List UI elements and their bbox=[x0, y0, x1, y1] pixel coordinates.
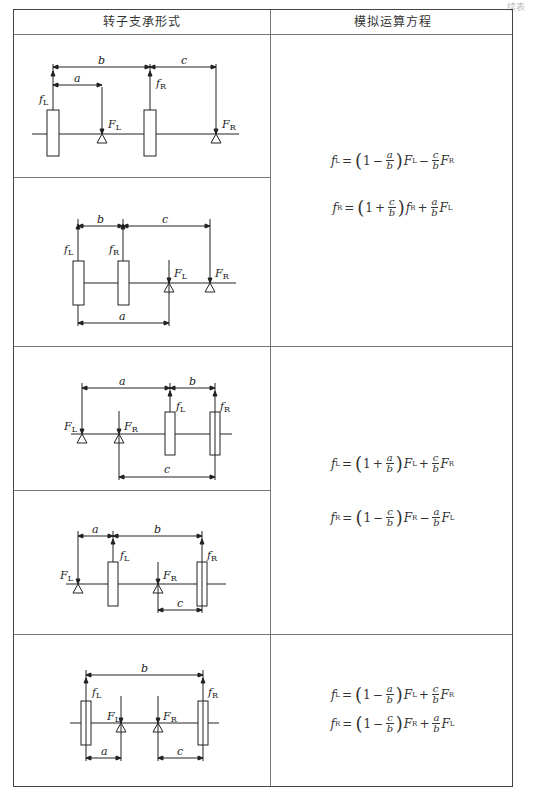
svg-text:fL: fL bbox=[175, 400, 186, 414]
operator: + bbox=[419, 688, 429, 702]
one: 1 bbox=[365, 201, 373, 215]
equals: = bbox=[342, 511, 352, 525]
operator: + bbox=[417, 201, 427, 215]
term: F bbox=[404, 511, 412, 525]
operator: + bbox=[419, 457, 429, 471]
paren-close: ) bbox=[396, 455, 403, 473]
operator: − bbox=[373, 511, 383, 525]
denominator: b bbox=[387, 695, 393, 705]
svg-text:FR: FR bbox=[123, 420, 139, 434]
paren-close: ) bbox=[396, 152, 403, 170]
denominator: b bbox=[432, 464, 438, 474]
svg-text:FL: FL bbox=[106, 710, 121, 724]
fraction: ab bbox=[386, 150, 394, 171]
lhs-sub: L bbox=[335, 157, 340, 165]
svg-text:FL: FL bbox=[107, 118, 122, 132]
svg-text:fL: fL bbox=[63, 243, 74, 257]
svg-text:FR: FR bbox=[214, 267, 230, 281]
denominator: b bbox=[389, 208, 395, 218]
svg-text:c: c bbox=[181, 54, 187, 67]
term-sub: L bbox=[450, 720, 455, 728]
equals: = bbox=[342, 457, 352, 471]
one: 1 bbox=[363, 154, 371, 168]
svg-text:FR: FR bbox=[162, 569, 178, 583]
fraction: cb bbox=[432, 684, 440, 705]
paren-open: ( bbox=[355, 509, 362, 527]
term-sub: R bbox=[449, 460, 454, 468]
svg-text:fL: fL bbox=[91, 686, 102, 700]
denominator: b bbox=[433, 724, 439, 734]
term-sub: L bbox=[412, 157, 417, 165]
lhs-sub: R bbox=[337, 204, 342, 212]
header-support-form: 转子支承形式 bbox=[14, 10, 270, 34]
fraction: cb bbox=[388, 197, 396, 218]
row-divider bbox=[14, 490, 270, 491]
svg-text:FR: FR bbox=[162, 710, 178, 724]
rotor-diagram-5: b a c fL fR FL FR bbox=[24, 643, 264, 783]
term-sub: R bbox=[449, 157, 454, 165]
row-divider bbox=[14, 177, 270, 178]
equals: = bbox=[344, 201, 354, 215]
denominator: b bbox=[387, 724, 393, 734]
operator: + bbox=[419, 717, 429, 731]
equals: = bbox=[342, 154, 352, 168]
equation-group-2-line-2: fR = (1 − cb ) FR − ab FL bbox=[271, 507, 514, 531]
operator: − bbox=[373, 717, 383, 731]
paren-close: ) bbox=[396, 686, 403, 704]
term: F bbox=[404, 688, 412, 702]
svg-text:a: a bbox=[119, 310, 126, 323]
paren-open: ( bbox=[355, 152, 362, 170]
operator: − bbox=[373, 154, 383, 168]
equation-group-3-line-1: fL = (1 − ab ) FL + cb FR bbox=[271, 684, 514, 708]
svg-text:c: c bbox=[162, 213, 168, 226]
term-sub: L bbox=[412, 691, 417, 699]
one: 1 bbox=[363, 457, 371, 471]
paren-close: ) bbox=[398, 199, 405, 217]
paren-close: ) bbox=[396, 509, 403, 527]
denominator: b bbox=[387, 464, 393, 474]
svg-text:c: c bbox=[177, 597, 183, 610]
svg-text:fL: fL bbox=[119, 549, 130, 563]
svg-text:a: a bbox=[92, 523, 99, 536]
svg-text:a: a bbox=[74, 72, 81, 85]
paren-open: ( bbox=[355, 715, 362, 733]
term: F bbox=[404, 154, 412, 168]
svg-text:fR: fR bbox=[206, 549, 218, 563]
term: F bbox=[441, 717, 449, 731]
term: F bbox=[440, 154, 448, 168]
term-sub: R bbox=[412, 720, 417, 728]
denominator: b bbox=[432, 695, 438, 705]
operator: − bbox=[419, 511, 429, 525]
svg-text:FL: FL bbox=[63, 420, 78, 434]
operator: − bbox=[373, 688, 383, 702]
svg-text:fR: fR bbox=[219, 400, 231, 414]
group-divider bbox=[14, 634, 512, 635]
header-equation: 模拟运算方程 bbox=[271, 10, 514, 34]
term-sub: R bbox=[449, 691, 454, 699]
term-sub: R bbox=[410, 204, 415, 212]
svg-text:b: b bbox=[141, 662, 148, 675]
lhs-sub: R bbox=[335, 514, 340, 522]
equation-group-2-line-1: fL = (1 + ab ) FL + cb FR bbox=[271, 453, 514, 477]
one: 1 bbox=[363, 688, 371, 702]
svg-text:FR: FR bbox=[221, 118, 237, 132]
svg-text:fR: fR bbox=[155, 77, 167, 91]
svg-text:b: b bbox=[154, 523, 161, 536]
column-divider bbox=[270, 10, 271, 786]
denominator: b bbox=[433, 518, 439, 528]
rotor-diagram-3: a b c fL fR FL FR bbox=[24, 355, 264, 485]
fraction: ab bbox=[386, 684, 394, 705]
denominator: b bbox=[387, 161, 393, 171]
svg-text:c: c bbox=[177, 745, 183, 758]
fraction: cb bbox=[432, 453, 440, 474]
denominator: b bbox=[431, 208, 437, 218]
operator: + bbox=[375, 201, 385, 215]
term: F bbox=[440, 457, 448, 471]
fraction: ab bbox=[386, 453, 394, 474]
svg-text:c: c bbox=[164, 463, 170, 476]
term-sub: L bbox=[448, 204, 453, 212]
equals: = bbox=[342, 688, 352, 702]
term-sub: L bbox=[450, 514, 455, 522]
term: F bbox=[441, 511, 449, 525]
svg-text:a: a bbox=[119, 375, 126, 388]
